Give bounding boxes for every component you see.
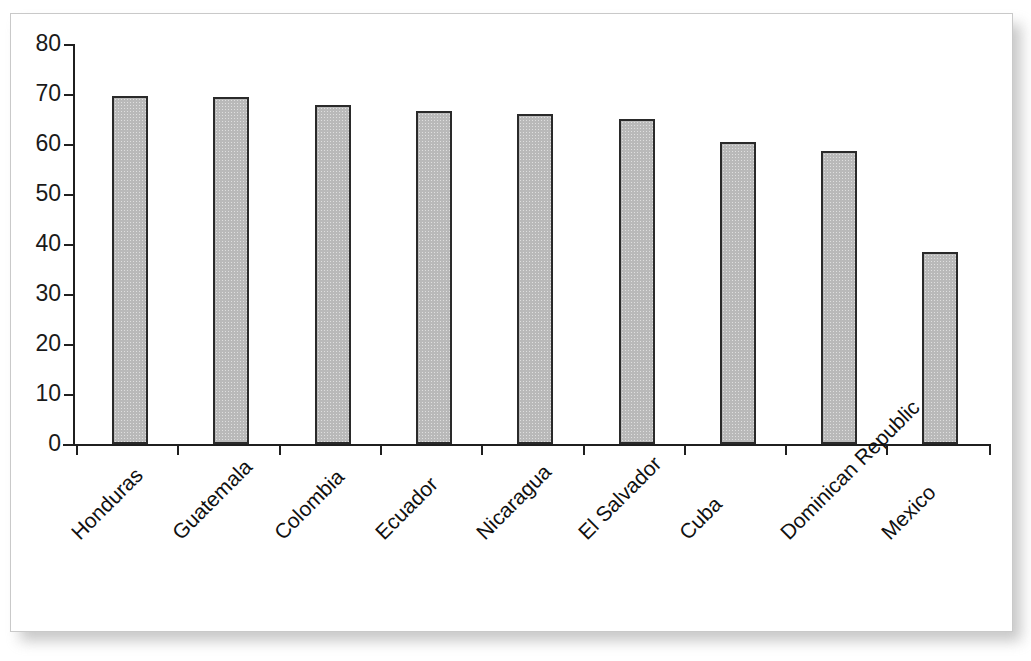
x-axis-category-label: Colombia (270, 465, 348, 543)
y-axis-tick-mark (64, 244, 73, 246)
x-axis-tick-mark (785, 446, 787, 455)
x-axis-tick-mark (380, 446, 382, 455)
x-axis-tick-mark (886, 446, 888, 455)
x-axis-tick-mark (177, 446, 179, 455)
bar-chart: 01020304050607080HondurasGuatemalaColomb… (0, 0, 1031, 661)
x-axis-tick-mark (279, 446, 281, 455)
x-axis-category-label: Honduras (67, 464, 146, 543)
x-axis-category-label: Mexico (878, 481, 940, 543)
x-axis-tick-mark (76, 446, 78, 455)
y-axis-tick-label: 0 (8, 432, 61, 455)
y-axis-tick-mark (64, 444, 73, 446)
y-axis-tick-label: 10 (8, 382, 61, 405)
x-axis-category-label: Nicaragua (472, 460, 555, 543)
x-axis-category-label: El Salvador (574, 452, 665, 543)
y-axis-tick-mark (64, 194, 73, 196)
x-axis-category-label: Guatemala (168, 456, 255, 543)
chart-page: 01020304050607080HondurasGuatemalaColomb… (0, 0, 1031, 661)
y-axis-tick-label: 30 (8, 282, 61, 305)
y-axis-tick-label: 80 (8, 32, 61, 55)
bar (517, 114, 553, 444)
y-axis-tick-mark (64, 294, 73, 296)
x-axis-tick-mark (684, 446, 686, 455)
y-axis-tick-mark (64, 144, 73, 146)
bar (315, 105, 351, 444)
y-axis-tick-label: 60 (8, 132, 61, 155)
y-axis-tick-mark (64, 344, 73, 346)
x-axis-line (63, 444, 991, 446)
y-axis-tick-mark (64, 394, 73, 396)
x-axis-tick-mark (583, 446, 585, 455)
x-axis-category-label: Ecuador (371, 473, 441, 543)
y-axis-tick-label: 20 (8, 332, 61, 355)
bar (821, 151, 857, 444)
bar (416, 111, 452, 444)
y-axis-tick-mark (64, 94, 73, 96)
y-axis-tick-mark (64, 44, 73, 46)
bar (619, 119, 655, 444)
x-axis-end-tick-mark (989, 446, 991, 455)
bar (213, 97, 249, 444)
bar (720, 142, 756, 444)
y-axis-tick-label: 40 (8, 232, 61, 255)
y-axis-tick-label: 70 (8, 82, 61, 105)
y-axis-tick-label: 50 (8, 182, 61, 205)
bar (922, 252, 958, 444)
x-axis-category-label: Cuba (675, 493, 725, 543)
x-axis-tick-mark (481, 446, 483, 455)
bar (112, 96, 148, 444)
y-axis-line (73, 44, 75, 446)
